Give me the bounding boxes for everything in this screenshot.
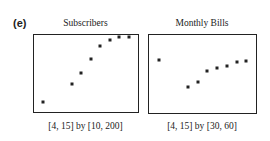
- data-point: [118, 36, 121, 39]
- chart-title-subscribers: Subscribers: [33, 18, 138, 28]
- data-point: [99, 45, 102, 48]
- chart-title-monthly-bills: Monthly Bills: [148, 18, 256, 28]
- data-point: [235, 61, 238, 64]
- data-point: [70, 82, 73, 85]
- data-point: [216, 66, 219, 69]
- data-point: [89, 57, 92, 60]
- data-point: [206, 70, 209, 73]
- data-point: [108, 38, 111, 41]
- panel-label: (e): [13, 17, 26, 29]
- data-point: [245, 60, 248, 63]
- data-point: [225, 65, 228, 68]
- data-point: [42, 101, 45, 104]
- plot-area-subscribers: [33, 34, 139, 113]
- data-point: [157, 58, 160, 61]
- window-range-monthly-bills: [4, 15] by [30, 60]: [148, 121, 256, 131]
- plot-area-monthly-bills: [148, 34, 257, 114]
- window-range-subscribers: [4, 15] by [10, 200]: [33, 121, 138, 131]
- data-point: [186, 86, 189, 89]
- data-point: [127, 36, 130, 39]
- data-point: [196, 80, 199, 83]
- data-point: [80, 72, 83, 75]
